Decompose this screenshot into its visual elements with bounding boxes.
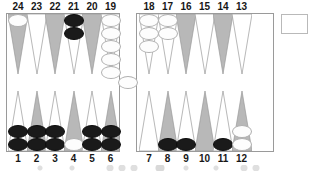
point-13[interactable] — [232, 14, 252, 74]
checker-black-point-2[interactable] — [27, 125, 47, 138]
checker-white-point-18[interactable] — [139, 27, 159, 40]
checker-black-point-5[interactable] — [82, 125, 102, 138]
point-triangle-14 — [213, 14, 233, 74]
checker-black-point-2[interactable] — [27, 138, 47, 151]
bar-checker-white[interactable] — [118, 76, 138, 89]
checker-black-point-3[interactable] — [45, 125, 65, 138]
point-triangle-10 — [195, 91, 215, 151]
checker-white-point-18[interactable] — [139, 40, 159, 53]
checker-black-point-1[interactable] — [8, 138, 28, 151]
checker-white-point-17[interactable] — [158, 14, 178, 27]
checker-white-point-19[interactable] — [101, 40, 121, 53]
point-7[interactable] — [139, 91, 159, 151]
bottom-point-numbers: 123456789101112 — [0, 152, 311, 165]
checker-white-point-19[interactable] — [101, 14, 121, 27]
point-20[interactable] — [82, 14, 102, 74]
checker-black-point-5[interactable] — [82, 138, 102, 151]
point-triangle-15 — [195, 14, 215, 74]
point-23[interactable] — [27, 14, 47, 74]
checker-black-point-1[interactable] — [8, 125, 28, 138]
checker-white-point-18[interactable] — [139, 14, 159, 27]
checker-white-point-19[interactable] — [101, 66, 121, 79]
point-number-19: 19 — [100, 0, 122, 13]
checker-black-point-8[interactable] — [158, 138, 178, 151]
point-16[interactable] — [176, 14, 196, 74]
point-triangle-7 — [139, 91, 159, 151]
point-triangle-20 — [82, 14, 102, 74]
point-triangle-22 — [45, 14, 65, 74]
point-number-6: 6 — [100, 152, 122, 165]
checker-white-point-19[interactable] — [101, 27, 121, 40]
checker-black-point-21[interactable] — [64, 14, 84, 27]
point-14[interactable] — [213, 14, 233, 74]
point-10[interactable] — [195, 91, 215, 151]
checker-black-point-11[interactable] — [213, 138, 233, 151]
checker-black-point-6[interactable] — [101, 138, 121, 151]
checker-black-point-9[interactable] — [176, 138, 196, 151]
point-triangle-16 — [176, 14, 196, 74]
point-triangle-13 — [232, 14, 252, 74]
doubling-cube-box[interactable] — [281, 14, 308, 34]
top-point-numbers: 242322212019181716151413 — [0, 0, 311, 13]
point-22[interactable] — [45, 14, 65, 74]
checker-black-point-21[interactable] — [64, 27, 84, 40]
checker-black-point-6[interactable] — [101, 125, 121, 138]
point-triangle-23 — [27, 14, 47, 74]
checker-black-point-3[interactable] — [45, 138, 65, 151]
checker-white-point-19[interactable] — [101, 53, 121, 66]
point-number-12: 12 — [231, 152, 253, 165]
checker-white-point-24[interactable] — [8, 14, 28, 27]
checker-white-point-12[interactable] — [232, 125, 252, 138]
scan-artifact — [0, 165, 311, 171]
backgammon-board: 242322212019181716151413 123456789101112 — [0, 0, 311, 171]
checker-white-point-12[interactable] — [232, 138, 252, 151]
checker-white-point-4[interactable] — [64, 138, 84, 151]
checker-white-point-17[interactable] — [158, 27, 178, 40]
point-15[interactable] — [195, 14, 215, 74]
point-number-13: 13 — [231, 0, 253, 13]
